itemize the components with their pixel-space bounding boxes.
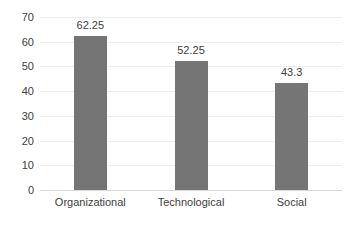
bar xyxy=(175,61,208,190)
bar-chart: 706050403020100 OrganizationalTechnologi… xyxy=(0,0,356,226)
y-tick-label: 0 xyxy=(0,185,34,196)
y-axis: 706050403020100 xyxy=(0,0,34,226)
y-tick-label: 70 xyxy=(0,12,34,23)
axis-baseline xyxy=(40,190,342,191)
y-tick-label: 50 xyxy=(0,61,34,72)
y-tick-label: 10 xyxy=(0,160,34,171)
x-axis: OrganizationalTechnologicalSocial xyxy=(40,196,342,216)
bar xyxy=(74,36,107,190)
bar-value-label: 52.25 xyxy=(177,45,205,56)
y-tick-label: 60 xyxy=(0,36,34,47)
x-tick-label: Technological xyxy=(158,196,225,209)
bar-value-label: 43.3 xyxy=(281,67,302,78)
y-tick-label: 30 xyxy=(0,110,34,121)
y-tick-label: 40 xyxy=(0,86,34,97)
bar-value-label: 62.25 xyxy=(77,20,105,31)
gridline xyxy=(40,17,342,18)
y-tick-label: 20 xyxy=(0,135,34,146)
bar xyxy=(275,83,308,190)
x-tick-label: Organizational xyxy=(55,196,126,209)
x-tick-label: Social xyxy=(277,196,307,209)
